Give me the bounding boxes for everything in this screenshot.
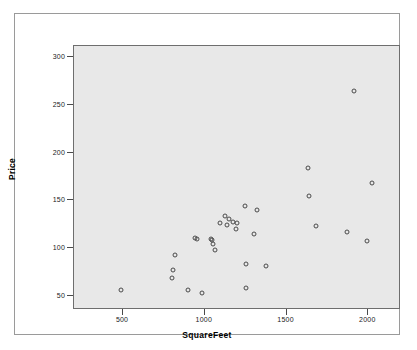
x-axis-tick-label: 1000 xyxy=(196,316,212,323)
data-point xyxy=(313,224,318,229)
y-axis-tick xyxy=(67,152,73,153)
data-point xyxy=(242,204,247,209)
data-point xyxy=(234,221,239,226)
data-point xyxy=(172,252,177,257)
y-axis-tick xyxy=(67,104,73,105)
plot-area xyxy=(73,45,400,309)
y-axis-tick-label: 150 xyxy=(27,196,65,203)
data-point xyxy=(194,237,199,242)
data-point xyxy=(233,226,238,231)
data-point xyxy=(255,207,260,212)
data-point xyxy=(264,264,269,269)
x-axis-tick xyxy=(122,309,123,315)
y-axis-title: Price xyxy=(7,158,17,180)
y-axis-tick xyxy=(67,56,73,57)
x-axis-tick-label: 1500 xyxy=(277,316,293,323)
y-axis-tick xyxy=(67,199,73,200)
x-axis-tick xyxy=(286,309,287,315)
figure-frame: 50100150200250300 500100015002000 Price … xyxy=(14,13,400,335)
data-point xyxy=(352,88,357,93)
x-axis-title: SquareFeet xyxy=(15,330,399,340)
x-axis-tick xyxy=(367,309,368,315)
y-axis-tick-label: 250 xyxy=(27,101,65,108)
x-axis-tick-label: 500 xyxy=(116,316,128,323)
y-axis-tick-label: 200 xyxy=(27,148,65,155)
data-point xyxy=(185,287,190,292)
data-point xyxy=(119,287,124,292)
data-point xyxy=(244,286,249,291)
scatter-plot-figure: 50100150200250300 500100015002000 Price … xyxy=(0,0,417,350)
y-axis-tick xyxy=(67,247,73,248)
y-axis-tick-label: 300 xyxy=(27,53,65,60)
data-point xyxy=(170,275,175,280)
data-point xyxy=(369,181,374,186)
y-axis-tick-label: 100 xyxy=(27,244,65,251)
data-point xyxy=(213,247,218,252)
data-point xyxy=(251,231,256,236)
data-point xyxy=(243,262,248,267)
data-point xyxy=(345,229,350,234)
data-point xyxy=(210,242,215,247)
x-axis-tick xyxy=(204,309,205,315)
x-axis-tick-label: 2000 xyxy=(359,316,375,323)
data-point xyxy=(364,239,369,244)
data-point xyxy=(199,290,204,295)
data-point xyxy=(224,223,229,228)
data-point xyxy=(170,267,175,272)
data-point xyxy=(305,165,310,170)
y-axis-tick xyxy=(67,295,73,296)
data-point xyxy=(218,221,223,226)
data-point xyxy=(307,193,312,198)
y-axis-tick-label: 50 xyxy=(27,291,65,298)
